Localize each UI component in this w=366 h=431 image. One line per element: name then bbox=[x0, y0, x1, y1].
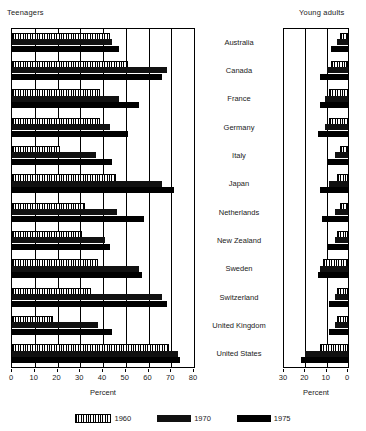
country-label-australia: Australia bbox=[200, 38, 278, 47]
country-label-italy: Italy bbox=[200, 151, 278, 160]
chart-legend: 196019701975 bbox=[0, 412, 366, 424]
bar-canada-1970 bbox=[327, 67, 348, 73]
bar-italy-1975 bbox=[327, 159, 348, 165]
bar-sweden-1970 bbox=[320, 266, 348, 272]
bar-new-zealand-1970 bbox=[335, 237, 348, 243]
bar-switzerland-1970 bbox=[335, 294, 348, 300]
legend-swatch-1975 bbox=[237, 415, 271, 422]
tick-label-20: 20 bbox=[300, 373, 308, 382]
tick-10 bbox=[326, 369, 327, 372]
tick-30 bbox=[283, 369, 284, 372]
tick-30 bbox=[79, 369, 80, 372]
gridline-20 bbox=[305, 29, 306, 367]
legend-label-1960: 1960 bbox=[114, 414, 131, 423]
legend-label-1970: 1970 bbox=[194, 414, 211, 423]
bar-australia-1975 bbox=[12, 46, 119, 52]
tick-label-0: 0 bbox=[345, 373, 349, 382]
x-axis-label-young-adults: Percent bbox=[303, 388, 329, 397]
bar-australia-1975 bbox=[331, 46, 348, 52]
plot-area-teenagers bbox=[11, 28, 195, 368]
bar-united-kingdom-1970 bbox=[12, 322, 98, 328]
bar-germany-1975 bbox=[318, 131, 348, 137]
tick-label-10: 10 bbox=[30, 373, 38, 382]
tick-label-60: 60 bbox=[143, 373, 151, 382]
bar-italy-1970 bbox=[12, 152, 96, 158]
bar-new-zealand-1975 bbox=[12, 244, 110, 250]
bar-netherlands-1970 bbox=[335, 209, 348, 215]
country-label-new-zealand: New Zealand bbox=[200, 236, 278, 245]
tick-10 bbox=[34, 369, 35, 372]
plot-area-young-adults bbox=[283, 28, 349, 368]
bar-france-1970 bbox=[325, 96, 348, 102]
tick-label-30: 30 bbox=[279, 373, 287, 382]
x-axis-teenagers: 01020304050607080 bbox=[11, 369, 195, 385]
legend-swatch-1960 bbox=[75, 414, 111, 423]
bar-sweden-1975 bbox=[318, 272, 348, 278]
legend-item-1970[interactable]: 1970 bbox=[157, 414, 211, 423]
country-label-netherlands: Netherlands bbox=[200, 208, 278, 217]
country-label-united-states: United States bbox=[200, 349, 278, 358]
legend-item-1960[interactable]: 1960 bbox=[75, 414, 131, 423]
bar-canada-1970 bbox=[12, 67, 167, 73]
tick-70 bbox=[170, 369, 171, 372]
x-axis-young-adults: 3020100 bbox=[283, 369, 349, 385]
tick-20 bbox=[304, 369, 305, 372]
tick-50 bbox=[125, 369, 126, 372]
bar-germany-1975 bbox=[12, 131, 128, 137]
panel-title-teenagers: Teenagers bbox=[7, 8, 44, 17]
bar-italy-1970 bbox=[335, 152, 348, 158]
bar-france-1975 bbox=[320, 102, 348, 108]
x-axis-label-teenagers: Percent bbox=[90, 388, 116, 397]
tick-40 bbox=[102, 369, 103, 372]
tick-label-70: 70 bbox=[166, 373, 174, 382]
bar-sweden-1970 bbox=[12, 266, 139, 272]
country-label-canada: Canada bbox=[200, 66, 278, 75]
country-label-sweden: Sweden bbox=[200, 264, 278, 273]
tick-label-50: 50 bbox=[121, 373, 129, 382]
bar-netherlands-1970 bbox=[12, 209, 117, 215]
legend-item-1975[interactable]: 1975 bbox=[237, 414, 291, 423]
tick-0 bbox=[347, 369, 348, 372]
bar-japan-1975 bbox=[320, 187, 348, 193]
bar-japan-1970 bbox=[329, 181, 348, 187]
bar-australia-1970 bbox=[12, 39, 112, 45]
gridline-70 bbox=[171, 29, 172, 367]
bar-united-states-1975 bbox=[301, 357, 348, 363]
panel-title-young-adults: Young adults bbox=[299, 8, 345, 17]
bar-united-states-1970 bbox=[12, 351, 178, 357]
country-label-united-kingdom: United Kingdom bbox=[200, 321, 278, 330]
bar-italy-1975 bbox=[12, 159, 112, 165]
tick-20 bbox=[57, 369, 58, 372]
bar-japan-1970 bbox=[12, 181, 162, 187]
bar-sweden-1975 bbox=[12, 272, 142, 278]
tick-label-0: 0 bbox=[9, 373, 13, 382]
tick-label-80: 80 bbox=[189, 373, 197, 382]
bar-germany-1970 bbox=[325, 124, 348, 130]
bar-australia-1970 bbox=[337, 39, 348, 45]
bar-japan-1975 bbox=[12, 187, 174, 193]
bar-new-zealand-1970 bbox=[12, 237, 105, 243]
country-label-france: France bbox=[200, 94, 278, 103]
bar-france-1975 bbox=[12, 102, 139, 108]
bar-new-zealand-1975 bbox=[327, 244, 348, 250]
country-label-germany: Germany bbox=[200, 123, 278, 132]
bar-netherlands-1975 bbox=[12, 216, 144, 222]
bar-netherlands-1975 bbox=[322, 216, 348, 222]
tick-label-40: 40 bbox=[98, 373, 106, 382]
tick-80 bbox=[193, 369, 194, 372]
legend-swatch-1970 bbox=[157, 415, 191, 422]
bar-switzerland-1970 bbox=[12, 294, 162, 300]
tick-0 bbox=[11, 369, 12, 372]
tick-label-20: 20 bbox=[52, 373, 60, 382]
bar-united-states-1970 bbox=[305, 351, 348, 357]
legend-label-1975: 1975 bbox=[274, 414, 291, 423]
dual-panel-bar-chart: Teenagers Young adults AustraliaCanadaFr… bbox=[0, 0, 366, 431]
bar-united-kingdom-1975 bbox=[12, 329, 112, 335]
bar-france-1970 bbox=[12, 96, 119, 102]
bar-united-states-1975 bbox=[12, 357, 180, 363]
bar-canada-1975 bbox=[320, 74, 348, 80]
bar-canada-1975 bbox=[12, 74, 162, 80]
country-label-japan: Japan bbox=[200, 179, 278, 188]
bar-switzerland-1975 bbox=[12, 301, 167, 307]
tick-label-30: 30 bbox=[75, 373, 83, 382]
